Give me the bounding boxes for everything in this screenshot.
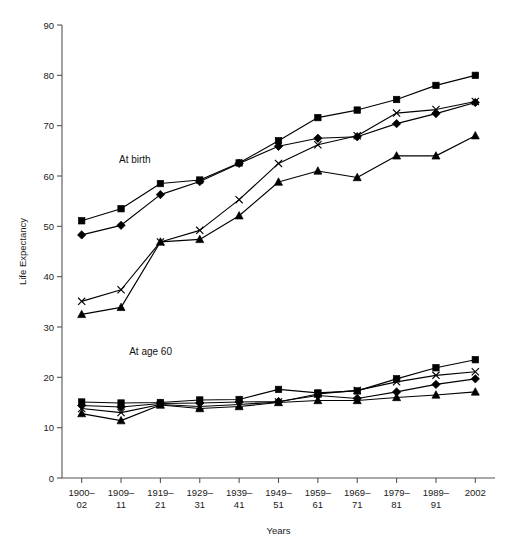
marker-triangle — [314, 167, 322, 174]
marker-square — [354, 107, 360, 113]
marker-diamond — [471, 375, 479, 383]
x-tick-label-second-line-6: 61 — [313, 499, 324, 510]
series-2 — [78, 98, 479, 305]
x-tick-label-second-line-0: 02 — [76, 499, 87, 510]
marker-diamond — [432, 380, 440, 388]
marker-triangle — [471, 132, 479, 139]
x-tick-label-3: 1929– — [187, 487, 214, 498]
marker-cross — [275, 160, 282, 167]
x-tick-label-second-line-3: 31 — [194, 499, 205, 510]
y-tick-label-50: 50 — [43, 221, 54, 232]
x-tick-label-second-line-1: 11 — [116, 499, 126, 510]
series-line — [82, 392, 476, 421]
x-tick-label-1: 1909– — [108, 487, 135, 498]
marker-square — [393, 96, 399, 102]
x-tick-label-6: 1959– — [305, 487, 332, 498]
y-tick-label-40: 40 — [43, 271, 54, 282]
marker-diamond — [392, 119, 400, 127]
y-axis-title: Life Expectancy — [17, 218, 28, 285]
marker-cross — [196, 227, 203, 234]
series-line — [82, 103, 476, 235]
x-tick-label-8: 1979– — [383, 487, 410, 498]
x-tick-label-second-line-5: 51 — [273, 499, 284, 510]
marker-square — [78, 218, 84, 224]
marker-cross — [117, 286, 124, 293]
y-tick-label-20: 20 — [43, 372, 54, 383]
series-line — [82, 102, 476, 302]
y-tick-label-70: 70 — [43, 120, 54, 131]
x-tick-label-second-line-7: 71 — [352, 499, 363, 510]
marker-diamond — [432, 109, 440, 117]
marker-square — [472, 357, 478, 363]
marker-triangle — [471, 388, 479, 395]
marker-square — [433, 82, 439, 88]
marker-triangle — [78, 409, 86, 416]
x-tick-label-second-line-8: 81 — [391, 499, 402, 510]
y-tick-label-0: 0 — [49, 473, 54, 484]
series-1 — [77, 98, 479, 239]
y-tick-label-90: 90 — [43, 20, 54, 31]
y-tick-label-10: 10 — [43, 422, 54, 433]
x-tick-label-4: 1939– — [226, 487, 253, 498]
marker-diamond — [77, 231, 85, 239]
marker-square — [472, 72, 478, 78]
marker-triangle — [117, 303, 125, 310]
x-tick-label-0: 1900– — [68, 487, 95, 498]
marker-cross — [78, 298, 85, 305]
marker-square — [118, 206, 124, 212]
y-tick-label-80: 80 — [43, 70, 54, 81]
y-tick-label-30: 30 — [43, 322, 54, 333]
marker-square — [315, 114, 321, 120]
axis-frame — [62, 25, 495, 478]
marker-cross — [236, 196, 243, 203]
x-tick-label-2: 1919– — [147, 487, 174, 498]
life-expectancy-chart: 01020304050607080901900–021909–111919–21… — [0, 0, 512, 547]
marker-square — [275, 386, 281, 392]
annotation-at-birth: At birth — [119, 154, 151, 165]
x-tick-label-10: 2002 — [465, 487, 486, 498]
x-tick-label-7: 1969– — [344, 487, 371, 498]
x-axis-title: Years — [267, 525, 291, 536]
x-tick-label-9: 1989– — [423, 487, 450, 498]
y-tick-label-60: 60 — [43, 171, 54, 182]
marker-triangle — [196, 235, 204, 242]
x-tick-label-second-line-2: 21 — [155, 499, 166, 510]
x-tick-label-second-line-4: 41 — [234, 499, 245, 510]
annotation-at-age-60: At age 60 — [129, 346, 172, 357]
marker-square — [433, 365, 439, 371]
x-tick-label-second-line-9: 91 — [431, 499, 442, 510]
chart-canvas: 01020304050607080901900–021909–111919–21… — [0, 0, 512, 547]
marker-square — [157, 180, 163, 186]
x-tick-label-5: 1949– — [265, 487, 292, 498]
